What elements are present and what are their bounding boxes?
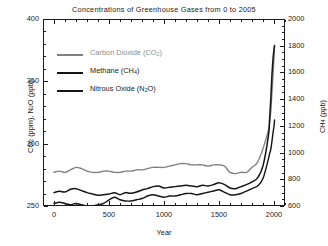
y-right-tick-600 (280, 206, 284, 207)
y-right-tick-label-1200: 1200 (288, 121, 304, 130)
x-minor-tick (230, 203, 231, 205)
x-tick-top-0 (54, 20, 55, 24)
y-left-minor-tick (44, 181, 46, 182)
x-tick-1500 (219, 201, 220, 205)
y-right-tick-1000 (280, 153, 284, 154)
y-left-tick-250 (44, 206, 48, 207)
y-left-minor-tick (44, 56, 46, 57)
y-right-tick-2000 (280, 19, 284, 20)
y-axis-left-title: CO2 (ppm), N2O (ppb) (26, 32, 35, 202)
y-left-tick-label-250: 250 (13, 201, 39, 210)
x-minor-tick-top (131, 20, 132, 22)
y-right-minor-tick (282, 26, 284, 27)
x-minor-tick-top (87, 20, 88, 22)
x-minor-tick-top (65, 20, 66, 22)
x-minor-tick-top (285, 20, 286, 22)
y-left-minor-tick (44, 44, 46, 45)
y-right-minor-tick (282, 66, 284, 67)
x-minor-tick (153, 203, 154, 205)
x-minor-tick-top (98, 20, 99, 22)
x-tick-label-500: 500 (89, 210, 129, 219)
y-right-minor-tick (282, 79, 284, 80)
x-minor-tick-top (230, 20, 231, 22)
x-tick-1000 (164, 201, 165, 205)
y-left-minor-tick (44, 106, 46, 107)
x-minor-tick (175, 203, 176, 205)
x-minor-tick (87, 203, 88, 205)
x-minor-tick (43, 203, 44, 205)
x-tick-2000 (274, 201, 275, 205)
y-left-tick-300 (44, 144, 48, 145)
y-left-tick-350 (44, 81, 48, 82)
chart-title: Concentrations of Greenhouse Gases from … (0, 5, 328, 14)
y-right-tick-800 (280, 179, 284, 180)
x-minor-tick-top (186, 20, 187, 22)
y-right-minor-tick (282, 119, 284, 120)
y-right-tick-1800 (280, 46, 284, 47)
y-right-tick-label-1600: 1600 (288, 67, 304, 76)
x-minor-tick-top (208, 20, 209, 22)
y-right-minor-tick (282, 173, 284, 174)
x-minor-tick (120, 203, 121, 205)
y-left-minor-tick (44, 131, 46, 132)
y-left-minor-tick (44, 194, 46, 195)
x-minor-tick-top (175, 20, 176, 22)
x-minor-tick-top (263, 20, 264, 22)
x-minor-tick (208, 203, 209, 205)
x-minor-tick (142, 203, 143, 205)
y-right-minor-tick (282, 113, 284, 114)
x-minor-tick (98, 203, 99, 205)
x-minor-tick (186, 203, 187, 205)
x-minor-tick-top (252, 20, 253, 22)
y-right-minor-tick (282, 193, 284, 194)
y-right-minor-tick (282, 39, 284, 40)
y-left-tick-label-400: 400 (13, 14, 39, 23)
y-right-minor-tick (282, 199, 284, 200)
y-right-tick-1400 (280, 99, 284, 100)
legend-swatch-co2 (57, 54, 83, 56)
legend-swatch-ch4 (57, 72, 83, 74)
y-right-minor-tick (282, 92, 284, 93)
y-right-minor-tick (282, 59, 284, 60)
legend-swatch-n2o (57, 90, 83, 92)
y-right-tick-label-1400: 1400 (288, 94, 304, 103)
x-minor-tick-top (241, 20, 242, 22)
series-carbondioxideco2 (54, 45, 275, 173)
x-minor-tick-top (142, 20, 143, 22)
x-tick-top-2000 (274, 20, 275, 24)
x-minor-tick (263, 203, 264, 205)
x-tick-top-1000 (164, 20, 165, 24)
y-right-minor-tick (282, 52, 284, 53)
y-right-minor-tick (282, 159, 284, 160)
y-right-tick-label-600: 600 (288, 201, 300, 210)
x-tick-label-1000: 1000 (144, 210, 184, 219)
plot-curves (43, 19, 285, 206)
x-tick-label-2000: 2000 (254, 210, 294, 219)
y-right-minor-tick (282, 186, 284, 187)
y-right-tick-label-1000: 1000 (288, 148, 304, 157)
x-minor-tick-top (120, 20, 121, 22)
y-left-minor-tick (44, 119, 46, 120)
y-right-minor-tick (282, 32, 284, 33)
x-minor-tick-top (197, 20, 198, 22)
x-tick-label-1500: 1500 (199, 210, 239, 219)
x-axis-title: Year (0, 228, 328, 237)
y-right-minor-tick (282, 86, 284, 87)
y-right-tick-label-800: 800 (288, 174, 300, 183)
y-right-minor-tick (282, 146, 284, 147)
x-tick-0 (54, 201, 55, 205)
y-left-minor-tick (44, 169, 46, 170)
y-right-tick-1200 (280, 126, 284, 127)
legend-label-co2: Carbon Dioxide (CO2) (90, 48, 162, 57)
y-left-minor-tick (44, 69, 46, 70)
y-axis-right-title: CH4 (ppb) (318, 47, 327, 187)
x-minor-tick-top (153, 20, 154, 22)
y-right-minor-tick (282, 106, 284, 107)
x-tick-top-1500 (219, 20, 220, 24)
x-minor-tick-top (43, 20, 44, 22)
x-minor-tick (65, 203, 66, 205)
y-left-minor-tick (44, 31, 46, 32)
x-tick-top-500 (109, 20, 110, 24)
x-minor-tick (285, 203, 286, 205)
chart-figure: Concentrations of Greenhouse Gases from … (0, 0, 328, 246)
